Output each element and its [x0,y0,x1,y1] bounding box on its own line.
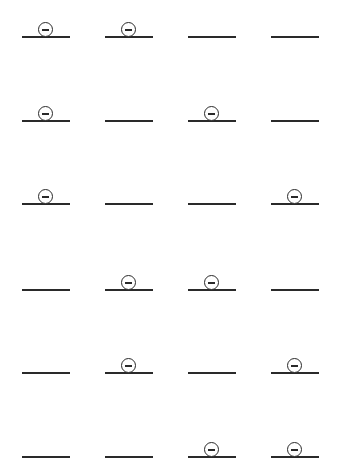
line-slot-r6-c4 [271,428,319,458]
line-slot-r4-c1 [22,261,70,291]
line-slot-r4-c2 [105,261,153,291]
baseline [188,36,236,38]
circled-minus-icon [121,22,136,37]
line-slot-r6-c3 [188,428,236,458]
line-slot-r3-c3 [188,175,236,205]
charge-diagram [0,0,338,468]
baseline [188,203,236,205]
line-slot-r6-c1 [22,428,70,458]
baseline [271,36,319,38]
baseline [105,120,153,122]
baseline [105,203,153,205]
line-slot-r1-c4 [271,8,319,38]
circled-minus-icon [204,442,219,457]
circled-minus-icon [287,189,302,204]
circled-minus-icon [287,358,302,373]
circled-minus-icon [38,189,53,204]
circled-minus-icon [38,106,53,121]
line-slot-r5-c1 [22,344,70,374]
line-slot-r5-c2 [105,344,153,374]
line-slot-r1-c3 [188,8,236,38]
line-slot-r6-c2 [105,428,153,458]
baseline [271,120,319,122]
line-slot-r3-c4 [271,175,319,205]
line-slot-r5-c3 [188,344,236,374]
baseline [188,372,236,374]
line-slot-r5-c4 [271,344,319,374]
baseline [271,289,319,291]
line-slot-r2-c4 [271,92,319,122]
circled-minus-icon [287,442,302,457]
circled-minus-icon [204,106,219,121]
circled-minus-icon [121,275,136,290]
circled-minus-icon [204,275,219,290]
baseline [22,372,70,374]
baseline [105,456,153,458]
line-slot-r3-c1 [22,175,70,205]
baseline [22,456,70,458]
line-slot-r3-c2 [105,175,153,205]
line-slot-r2-c3 [188,92,236,122]
circled-minus-icon [38,22,53,37]
circled-minus-icon [121,358,136,373]
line-slot-r4-c3 [188,261,236,291]
line-slot-r1-c1 [22,8,70,38]
baseline [22,289,70,291]
line-slot-r1-c2 [105,8,153,38]
line-slot-r4-c4 [271,261,319,291]
line-slot-r2-c2 [105,92,153,122]
line-slot-r2-c1 [22,92,70,122]
